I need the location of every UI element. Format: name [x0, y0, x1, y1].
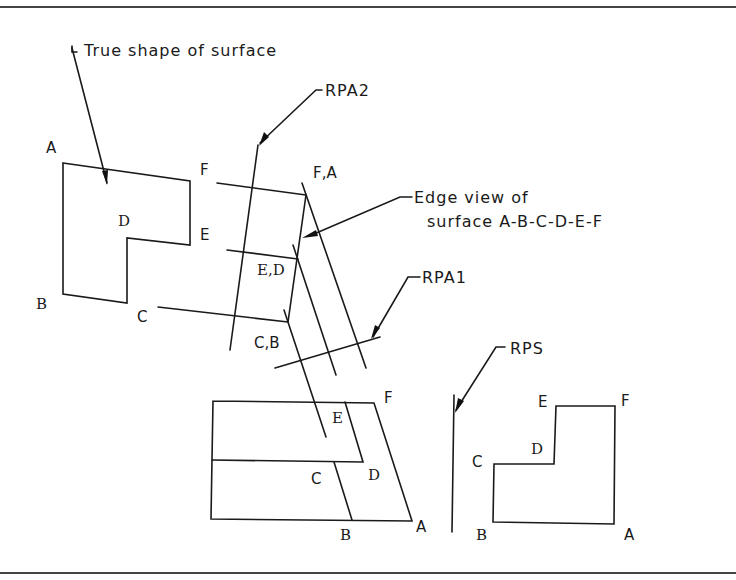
true-shape-leader: True shape of surface [72, 41, 277, 185]
rpa2-group: RPA2 [230, 81, 370, 350]
arrow-head-icon [102, 170, 108, 185]
edge-view-arrow-icon [302, 230, 318, 238]
front-label-e: E [332, 409, 343, 427]
side-label-d: D [531, 440, 543, 458]
rps-leader [456, 347, 505, 410]
true-shape-label-e: E [200, 226, 209, 244]
true-shape-label-b: B [36, 295, 47, 313]
front-lower-edge [334, 462, 352, 520]
edge-label-ed: E,D [257, 261, 285, 279]
true-shape-outline [63, 163, 190, 303]
edge-label-fa: F,A [313, 164, 337, 182]
edge-label-cb: C,B [254, 334, 280, 352]
front-label-d: D [368, 466, 380, 484]
projector-fa-down [302, 183, 366, 368]
rps-label: RPS [510, 339, 544, 358]
rpa2-arrow-icon [259, 132, 269, 146]
side-view: E F D C B A [472, 392, 635, 544]
side-label-e: E [538, 393, 547, 411]
rpa2-label: RPA2 [325, 81, 370, 100]
edge-view-annotation-line2: surface A-B-C-D-E-F [427, 212, 603, 231]
true-shape-label-d: D [118, 212, 130, 230]
true-shape-label-f: F [200, 161, 209, 179]
front-view: E F C D B A [211, 389, 427, 544]
side-label-f: F [621, 392, 630, 410]
true-shape-view: A D B C F E [36, 139, 209, 326]
rpa2-leader [260, 90, 322, 143]
front-label-f: F [384, 389, 393, 407]
rps-group: RPS [452, 339, 544, 532]
drawing-canvas: A D B C F E True shape of surface RPA2 F… [0, 0, 736, 580]
rpa1-label: RPA1 [422, 268, 467, 287]
true-shape-annotation: True shape of surface [83, 41, 277, 60]
projector-cb-down [284, 310, 326, 437]
rpa2-line [230, 145, 258, 350]
projector-e [227, 250, 298, 259]
front-label-c: C [311, 470, 321, 488]
projector-f [217, 183, 306, 195]
side-label-b: B [476, 526, 487, 544]
side-label-a: A [624, 526, 635, 544]
edge-view-annotation-line1: Edge view of [414, 188, 529, 207]
true-shape-label-c: C [137, 308, 147, 326]
true-shape-label-a: A [46, 139, 57, 157]
rpa1-leader [373, 277, 420, 337]
side-label-c: C [472, 453, 482, 471]
front-label-a: A [416, 518, 427, 536]
rps-line [452, 395, 454, 532]
leader-line [72, 48, 107, 183]
edge-view-leader: Edge view of surface A-B-C-D-E-F [302, 188, 603, 238]
rpa1-group: RPA1 [275, 268, 467, 368]
front-label-b: B [340, 526, 351, 544]
side-view-outline [493, 406, 615, 524]
projector-c [158, 307, 288, 322]
edge-view-leader-line [314, 197, 412, 234]
